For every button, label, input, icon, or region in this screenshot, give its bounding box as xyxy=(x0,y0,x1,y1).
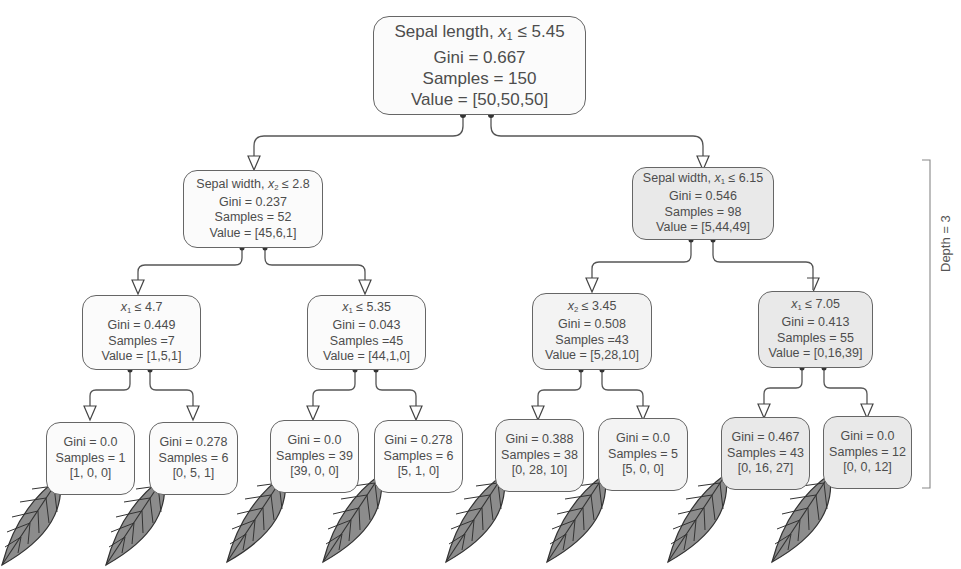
gini: Gini = 0.467 xyxy=(732,430,800,446)
samples: Samples = 39 xyxy=(276,449,353,465)
gini: Gini = 0.546 xyxy=(669,189,737,205)
samples: Samples =7 xyxy=(108,334,174,350)
value: [0, 0, 12] xyxy=(843,460,892,476)
node-l2-1: x1 ≤ 5.35 Gini = 0.043 Samples =45 Value… xyxy=(307,295,426,370)
gini: Gini = 0.388 xyxy=(506,432,574,448)
root-node: Sepal length, x1 ≤ 5.45 Gini = 0.667 Sam… xyxy=(373,16,586,115)
root-samples: Samples = 150 xyxy=(423,68,537,89)
node-sepal-width-left: Sepal width, x2 ≤ 2.8 Gini = 0.237 Sampl… xyxy=(183,170,323,248)
samples: Samples = 1 xyxy=(56,451,126,467)
samples: Samples = 5 xyxy=(608,447,678,463)
gini: Gini = 0.237 xyxy=(219,195,287,211)
split-condition: Sepal width, x1 ≤ 6.15 xyxy=(643,171,763,189)
leaf-node-1: Gini = 0.278 Samples = 6 [0, 5, 1] xyxy=(149,422,238,495)
gini: Gini = 0.043 xyxy=(333,318,401,334)
samples: Samples = 98 xyxy=(665,205,742,221)
gini: Gini = 0.0 xyxy=(64,435,118,451)
gini: Gini = 0.508 xyxy=(558,317,626,333)
value: [5, 1, 0] xyxy=(398,464,440,480)
samples: Samples = 6 xyxy=(384,449,454,465)
value: [0, 28, 10] xyxy=(512,463,568,479)
value: [5, 0, 0] xyxy=(622,462,664,478)
value: [0, 5, 1] xyxy=(173,466,215,482)
root-value: Value = [50,50,50] xyxy=(411,89,548,110)
leaf-node-2: Gini = 0.0 Samples = 39 [39, 0, 0] xyxy=(270,420,359,493)
root-split-condition: Sepal length, x1 ≤ 5.45 xyxy=(394,21,564,47)
node-l2-2: x2 ≤ 3.45 Gini = 0.508 Samples =43 Value… xyxy=(532,293,652,370)
edge-root-right xyxy=(491,115,703,168)
value: Value = [0,16,39] xyxy=(769,346,863,362)
gini: Gini = 0.278 xyxy=(160,435,228,451)
gini: Gini = 0.449 xyxy=(108,318,176,334)
gini: Gini = 0.278 xyxy=(385,433,453,449)
samples: Samples = 43 xyxy=(727,446,804,462)
arrowhead xyxy=(248,156,260,170)
gini: Gini = 0.0 xyxy=(288,433,342,449)
leaf-node-6: Gini = 0.467 Samples = 43 [0, 16, 27] xyxy=(721,417,810,490)
split-condition: x1 ≤ 7.05 xyxy=(791,297,840,315)
value: [0, 16, 27] xyxy=(738,461,794,477)
leaf-node-4: Gini = 0.388 Samples = 38 [0, 28, 10] xyxy=(495,419,584,492)
value: Value = [45,6,1] xyxy=(210,226,297,242)
split-condition: x2 ≤ 3.45 xyxy=(568,299,617,317)
gini: Gini = 0.0 xyxy=(841,429,895,445)
split-condition: x1 ≤ 5.35 xyxy=(342,300,391,318)
samples: Samples = 55 xyxy=(777,331,854,347)
node-l2-0: x1 ≤ 4.7 Gini = 0.449 Samples =7 Value =… xyxy=(82,295,201,370)
samples: Samples = 12 xyxy=(829,445,906,461)
leaf-node-3: Gini = 0.278 Samples = 6 [5, 1, 0] xyxy=(374,420,463,493)
value: Value = [5,28,10] xyxy=(545,348,639,364)
leaf-node-0: Gini = 0.0 Samples = 1 [1, 0, 0] xyxy=(46,422,135,495)
leaf-node-7: Gini = 0.0 Samples = 12 [0, 0, 12] xyxy=(823,416,912,489)
samples: Samples =43 xyxy=(555,333,628,349)
gini: Gini = 0.0 xyxy=(616,431,670,447)
value: Value = [44,1,0] xyxy=(323,349,410,365)
root-gini: Gini = 0.667 xyxy=(433,47,525,68)
split-condition: x1 ≤ 4.7 xyxy=(121,300,163,318)
samples: Samples =45 xyxy=(330,334,403,350)
value: Value = [1,5,1] xyxy=(101,349,181,365)
samples: Samples = 52 xyxy=(215,210,292,226)
value: [39, 0, 0] xyxy=(290,464,339,480)
value: Value = [5,44,49] xyxy=(656,220,750,236)
gini: Gini = 0.413 xyxy=(782,315,850,331)
depth-bracket xyxy=(922,160,930,488)
leaf-node-5: Gini = 0.0 Samples = 5 [5, 0, 0] xyxy=(598,418,688,491)
node-l2-3: x1 ≤ 7.05 Gini = 0.413 Samples = 55 Valu… xyxy=(758,291,873,368)
edge-root-left xyxy=(254,115,463,168)
value: [1, 0, 0] xyxy=(70,466,112,482)
split-condition: Sepal width, x2 ≤ 2.8 xyxy=(196,177,309,195)
samples: Samples = 6 xyxy=(159,451,229,467)
node-sepal-width-right: Sepal width, x1 ≤ 6.15 Gini = 0.546 Samp… xyxy=(632,167,774,240)
samples: Samples = 38 xyxy=(501,448,578,464)
depth-label: Depth = 3 xyxy=(938,215,953,272)
